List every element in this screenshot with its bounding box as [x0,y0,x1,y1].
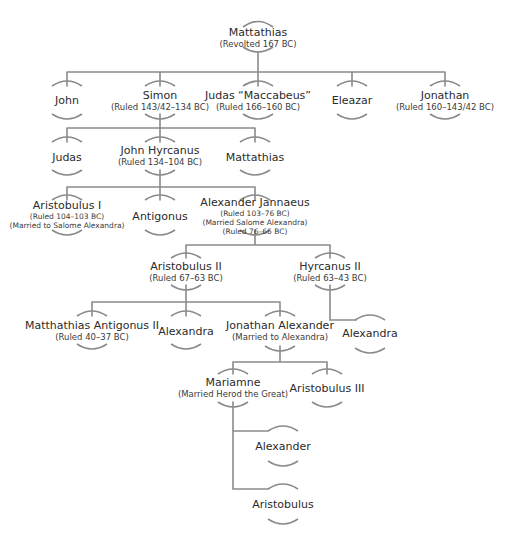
person-note: (Ruled 160–143/42 BC) [396,102,494,112]
person-note: (Ruled 67–63 BC) [149,273,222,283]
person-note: (Married Herod the Great) [178,389,288,399]
person-alexander-jannaeus: Alexander Jannaeus (Ruled 103–76 BC) (Ma… [200,196,309,236]
person-mattathias-2: Mattathias [226,151,284,164]
person-name: Eleazar [332,94,373,107]
person-aristobulus: Aristobulus [252,498,314,511]
person-hyrcanus-2: Hyrcanus II (Ruled 63–43 BC) [293,260,366,283]
person-aristobulus-3: Aristobulus III [290,382,365,395]
person-note: (Ruled 104–103 BC) [10,212,125,221]
person-note: (Ruled 134–104 BC) [118,157,202,167]
person-note: (Ruled 40–37 BC) [25,332,159,342]
person-alexander: Alexander [255,440,311,453]
person-name: Mariamne [178,376,288,389]
person-name: Judas [52,151,82,164]
person-name: Jonathan [396,89,494,102]
person-jonathan-alexander: Jonathan Alexander (Married to Alexandra… [226,319,334,342]
person-name: Mattathias [219,26,296,39]
person-name: Hyrcanus II [293,260,366,273]
person-name: Alexandra [342,327,398,340]
person-name: Matthathias Antigonus II [25,319,159,332]
person-name: Antigonus [132,210,187,223]
person-note: (Married to Salome Alexandra) [10,221,125,230]
family-tree-lines [0,0,511,547]
person-name: Aristobulus [252,498,314,511]
person-name: Simon [111,89,209,102]
person-note: (Ruled 63–43 BC) [293,273,366,283]
person-name: Aristobulus I [10,199,125,212]
person-alexandra-2: Alexandra [342,327,398,340]
person-name: Judas “Maccabeus” [205,89,311,102]
person-judas-maccabeus: Judas “Maccabeus” (Ruled 166–160 BC) [205,89,311,112]
person-note: (Ruled 143/42–134 BC) [111,102,209,112]
person-name: Mattathias [226,151,284,164]
person-judas: Judas [52,151,82,164]
person-mariamne: Mariamne (Married Herod the Great) [178,376,288,399]
person-name: Alexander [255,440,311,453]
person-name: Alexander Jannaeus [200,196,309,209]
person-alexandra-1: Alexandra [158,325,214,338]
person-name: Alexandra [158,325,214,338]
person-name: John [55,94,79,107]
person-jonathan: Jonathan (Ruled 160–143/42 BC) [396,89,494,112]
person-note: (Ruled 76–66 BC) [200,227,309,236]
person-note: (Ruled 103–76 BC) [200,209,309,218]
person-john: John [55,94,79,107]
person-note: (Married Salome Alexandra) [200,218,309,227]
person-aristobulus-2: Aristobulus II (Ruled 67–63 BC) [149,260,222,283]
person-matthathias-antigonus-2: Matthathias Antigonus II (Ruled 40–37 BC… [25,319,159,342]
person-eleazar: Eleazar [332,94,373,107]
person-antigonus: Antigonus [132,210,187,223]
person-name: Aristobulus III [290,382,365,395]
person-name: Aristobulus II [149,260,222,273]
person-note: (Married to Alexandra) [226,332,334,342]
person-name: Jonathan Alexander [226,319,334,332]
person-note: (Revolted 167 BC) [219,39,296,49]
person-john-hyrcanus: John Hyrcanus (Ruled 134–104 BC) [118,144,202,167]
person-aristobulus-1: Aristobulus I (Ruled 104–103 BC) (Marrie… [10,199,125,230]
person-mattathias: Mattathias (Revolted 167 BC) [219,26,296,49]
person-simon: Simon (Ruled 143/42–134 BC) [111,89,209,112]
person-name: John Hyrcanus [118,144,202,157]
person-note: (Ruled 166–160 BC) [205,102,311,112]
